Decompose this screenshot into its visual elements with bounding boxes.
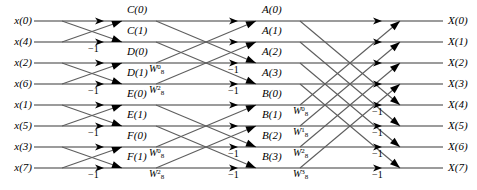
stage1-label-E0: E(0) xyxy=(127,88,147,99)
stage2-label-A1: A(1) xyxy=(262,25,282,36)
stage2-label-A2: A(2) xyxy=(262,46,282,57)
diag-arrow-s2 xyxy=(245,126,256,133)
stage1-label-C0: C(0) xyxy=(127,4,147,15)
stage2-label-A0: A(0) xyxy=(262,4,282,15)
stage3-minus-one-r6: −1 xyxy=(372,149,383,159)
stage1-minus-one-r3: −1 xyxy=(88,86,99,96)
output-label-2: X(2) xyxy=(448,57,468,68)
diag-arrow-s2 xyxy=(245,42,256,49)
stage1-minus-one-r7: −1 xyxy=(88,170,99,180)
diag-arrow-s2 xyxy=(245,56,256,63)
diag-arrow-s2 xyxy=(245,105,256,112)
diag-arrow-s1 xyxy=(111,35,122,42)
stage3-twiddle-r5: W18 xyxy=(293,127,308,139)
stage2-minus-one-r7: −1 xyxy=(228,170,239,180)
stage2-minus-one-r2: −1 xyxy=(228,65,239,75)
stage3-twiddle-r6: W28 xyxy=(293,148,308,160)
diag-arrow-s1 xyxy=(111,105,122,112)
diag-arrow-s1 xyxy=(111,147,122,154)
stage3-minus-one-r7: −1 xyxy=(372,170,383,180)
diag-arrow-s1 xyxy=(111,21,122,28)
stage1-minus-one-r5: −1 xyxy=(88,128,99,138)
stage1-label-D1: D(1) xyxy=(127,67,148,78)
output-label-6: X(6) xyxy=(448,141,468,152)
diag-arrow-s2 xyxy=(245,140,256,147)
input-label-7: x(7) xyxy=(2,162,32,173)
stage1-label-F1: F(1) xyxy=(127,151,147,162)
stage2-label-B0: B(0) xyxy=(262,88,282,99)
diag-arrow-s1 xyxy=(111,77,122,84)
stage2-minus-one-r3: −1 xyxy=(228,86,239,96)
output-label-5: X(5) xyxy=(448,120,468,131)
output-label-7: X(7) xyxy=(448,162,468,173)
stage3-minus-one-r5: −1 xyxy=(372,128,383,138)
output-label-4: X(4) xyxy=(448,99,468,110)
input-label-1: x(4) xyxy=(2,36,32,47)
stage2-label-B2: B(2) xyxy=(262,130,282,141)
input-label-6: x(3) xyxy=(2,141,32,152)
fft-flow-graph-diagram: x(0)x(4)x(2)x(6)x(1)x(5)x(3)x(7) C(0)C(1… xyxy=(0,0,477,190)
stage2-label-A3: A(3) xyxy=(262,67,282,78)
input-label-5: x(5) xyxy=(2,120,32,131)
stage2-twiddle-r2: W08 xyxy=(149,64,164,76)
input-label-3: x(6) xyxy=(2,78,32,89)
input-label-0: x(0) xyxy=(2,15,32,26)
stage2-minus-one-r6: −1 xyxy=(228,149,239,159)
stage3-minus-one-r4: −1 xyxy=(372,107,383,117)
stage2-twiddle-r6: W08 xyxy=(149,148,164,160)
diag-arrow-s1 xyxy=(111,119,122,126)
stage2-twiddle-r3: W28 xyxy=(149,85,164,97)
diag-arrow-s2 xyxy=(245,21,256,28)
stage2-twiddle-r7: W28 xyxy=(149,169,164,181)
diag-arrow-s1 xyxy=(111,63,122,70)
input-label-4: x(1) xyxy=(2,99,32,110)
output-label-0: X(0) xyxy=(448,15,468,26)
diag-arrow-s2 xyxy=(245,77,256,84)
diag-arrow-s1 xyxy=(111,161,122,168)
input-label-2: x(2) xyxy=(2,57,32,68)
stage1-label-C1: C(1) xyxy=(127,25,147,36)
stage3-twiddle-r4: W08 xyxy=(293,106,308,118)
diag-arrow-s2 xyxy=(245,161,256,168)
output-label-1: X(1) xyxy=(448,36,468,47)
stage2-label-B1: B(1) xyxy=(262,109,282,120)
stage1-label-E1: E(1) xyxy=(127,109,147,120)
output-label-3: X(3) xyxy=(448,78,468,89)
stage3-twiddle-r7: W38 xyxy=(293,169,308,181)
stage2-label-B3: B(3) xyxy=(262,151,282,162)
stage1-minus-one-r1: −1 xyxy=(88,44,99,54)
stage1-label-F0: F(0) xyxy=(127,130,147,141)
stage1-label-D0: D(0) xyxy=(127,46,148,57)
